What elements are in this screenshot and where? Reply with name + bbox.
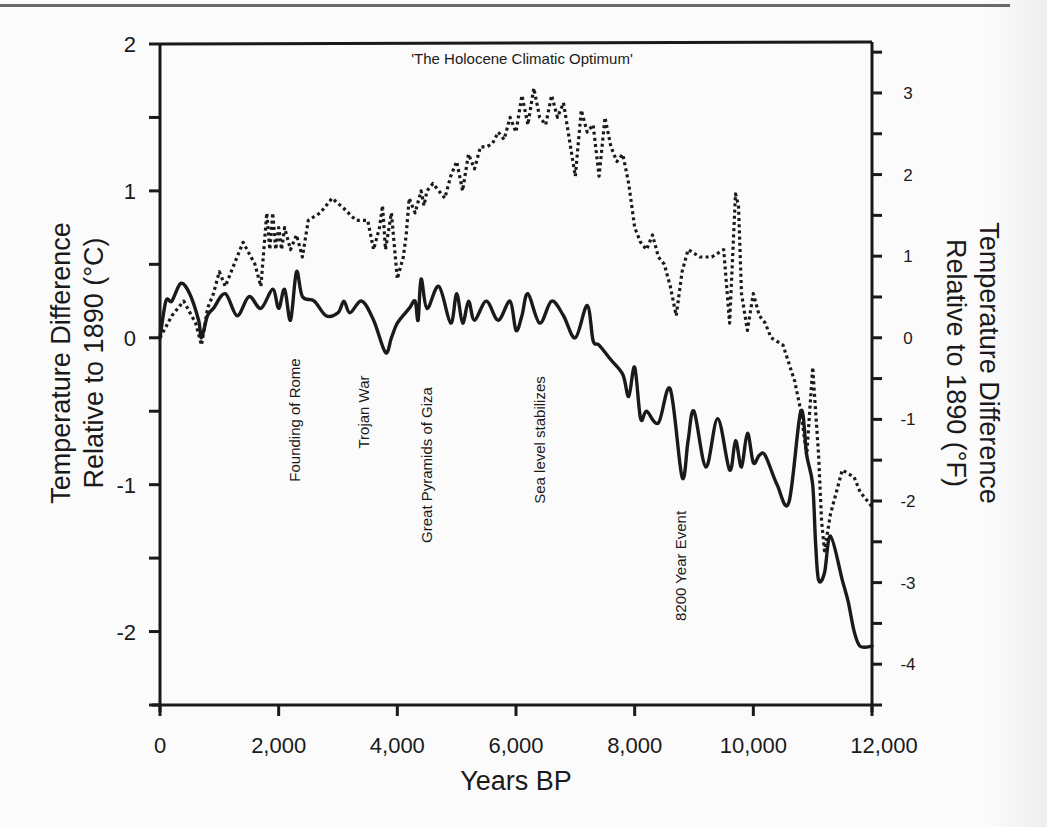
solid-temperature-series [160, 271, 872, 647]
y-tick-label: 1 [124, 179, 136, 204]
y-tick-label: -2 [116, 620, 136, 645]
y-axis-right-title-line2: Relative to 1890 (°F) [941, 239, 971, 487]
y2-tick-label: 0 [903, 329, 912, 348]
y2-tick-label: -3 [900, 574, 915, 593]
y-axis-left-title-line2: Relative to 1890 (°C) [79, 238, 109, 489]
annotation-label: 8200 Year Event [672, 510, 689, 621]
x-tick-label: 2,000 [251, 733, 306, 758]
x-tick-label: 10,000 [720, 733, 787, 758]
dotted-temperature-series [160, 88, 872, 551]
y-axis-right-title: Temperature Difference Relative to 1890 … [941, 222, 1004, 504]
annotation-label: Sea level stabilizes [531, 376, 548, 504]
y-axis-left-title: Temperature Difference Relative to 1890 … [46, 222, 109, 504]
y2-tick-label: -2 [900, 492, 915, 511]
x-axis-ticks: 02,0004,0006,0008,00010,00012,000 [154, 705, 918, 758]
y-tick-label: 0 [124, 326, 136, 351]
x-axis-title: Years BP [460, 766, 572, 796]
y-axis-right-title-line1: Temperature Difference [974, 222, 1004, 504]
x-tick-label: 4,000 [370, 733, 425, 758]
x-tick-label: 12,000 [850, 733, 917, 758]
annotation-label: Founding of Rome [286, 358, 303, 481]
annotation-label: Trojan War [355, 375, 372, 448]
x-tick-label: 0 [154, 733, 166, 758]
plot-frame [152, 42, 872, 712]
y2-tick-label: 2 [903, 166, 912, 185]
y2-tick-label: 3 [903, 84, 912, 103]
x-tick-label: 8,000 [607, 733, 662, 758]
y2-tick-label: 1 [903, 247, 912, 266]
y-tick-label: 2 [124, 32, 136, 57]
temperature-chart: 210-1-2 3210-1-2-3-4 02,0004,0006,0008,0… [0, 0, 1047, 827]
y-axis-left-ticks: 210-1-2 [116, 32, 160, 705]
y-axis-left-title-line1: Temperature Difference [46, 222, 76, 504]
x-tick-label: 6,000 [488, 733, 543, 758]
y-axis-right-ticks: 3210-1-2-3-4 [872, 52, 916, 705]
y2-tick-label: -1 [900, 410, 915, 429]
y-tick-label: -1 [116, 473, 136, 498]
y2-tick-label: -4 [900, 655, 915, 674]
annotation-label: Great Pyramids of Giza [418, 386, 435, 543]
chart-title: 'The Holocene Climatic Optimum' [411, 50, 633, 67]
